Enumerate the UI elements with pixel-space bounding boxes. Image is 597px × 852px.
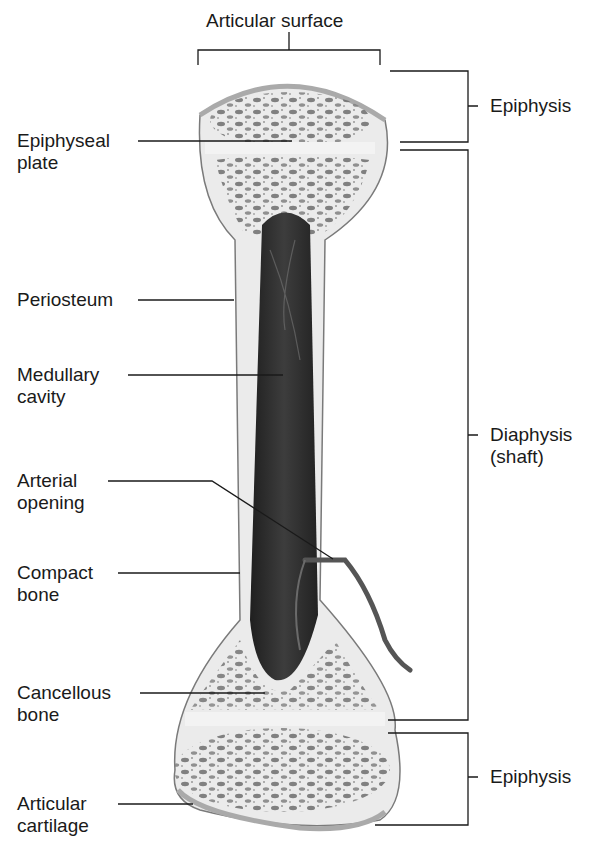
label-diaphysis: Diaphysis (shaft) (490, 424, 572, 468)
label-articular-surface: Articular surface (206, 10, 343, 32)
label-compact-bone: Compact bone (17, 562, 93, 606)
label-periosteum: Periosteum (17, 289, 113, 311)
label-epiphyseal-plate: Epiphyseal plate (17, 130, 110, 174)
label-articular-cartilage: Articular cartilage (17, 793, 89, 837)
label-arterial-opening: Arterial opening (17, 470, 85, 514)
label-epiphysis-bottom: Epiphysis (490, 766, 571, 788)
label-cancellous-bone: Cancellous bone (17, 682, 111, 726)
label-medullary-cavity: Medullary cavity (17, 364, 99, 408)
label-epiphysis-top: Epiphysis (490, 95, 571, 117)
